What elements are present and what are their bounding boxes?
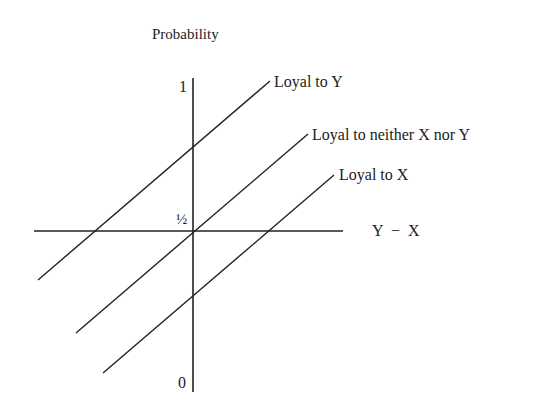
x-axis-title: Y − X [372, 223, 420, 239]
tick-zero: 0 [178, 375, 186, 391]
line-loyal-to-x [103, 175, 334, 373]
label-loyal-to-x: Loyal to X [339, 167, 408, 183]
label-loyal-to-y: Loyal to Y [274, 74, 343, 90]
y-axis-title: Probability [152, 27, 219, 42]
line-loyal-to-y [38, 81, 270, 280]
tick-half: ½ [176, 212, 187, 227]
diagram-canvas [0, 0, 544, 418]
label-loyal-to-neither: Loyal to neither X nor Y [312, 127, 470, 143]
line-loyal-to-neither [76, 134, 308, 333]
tick-one: 1 [179, 79, 187, 95]
